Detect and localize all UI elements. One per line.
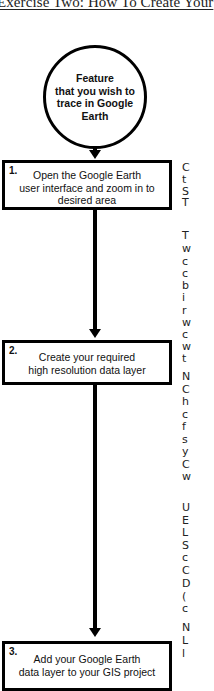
side-text-fragment: N — [182, 371, 190, 383]
side-text-fragment: w — [182, 471, 191, 483]
side-text-fragment: i — [182, 292, 185, 304]
side-text-fragment: c — [182, 603, 188, 615]
side-text-fragment: f — [182, 421, 186, 433]
side-text-fragment: L — [182, 527, 188, 539]
step-text: Add your Google Earth data layer to your… — [5, 644, 169, 678]
step-text: Open the Google Earth user interface and… — [5, 163, 169, 207]
side-text-column: CtSTTwccbirwcwtNChcfsyCwUELScCD(cNLl — [182, 0, 198, 677]
side-text-fragment: T — [182, 197, 189, 209]
side-text-fragment: t — [182, 353, 186, 365]
connector-line — [93, 385, 97, 629]
side-text-fragment: C — [182, 565, 190, 577]
start-node-circle: Feature that you wish to trace in Google… — [43, 45, 147, 149]
arrow-down-icon — [89, 628, 101, 637]
side-text-fragment: U — [182, 502, 190, 514]
side-text-fragment: D — [182, 578, 190, 590]
side-text-fragment: L — [182, 635, 188, 647]
start-node-label: Feature that you wish to trace in Google… — [55, 72, 135, 122]
side-text-fragment: N — [182, 622, 190, 634]
step-2-box: 2. Create your required high resolution … — [2, 340, 172, 385]
step-number: 1. — [9, 165, 17, 176]
side-text-fragment: w — [182, 243, 191, 255]
connector-line — [93, 210, 97, 330]
step-number: 3. — [9, 646, 17, 657]
side-text-fragment: h — [182, 396, 189, 408]
arrow-down-icon — [89, 329, 101, 338]
step-3-box: 3. Add your Google Earth data layer to y… — [2, 641, 172, 691]
side-text-fragment: y — [182, 446, 189, 458]
step-text: Create your required high resolution dat… — [5, 343, 169, 376]
side-text-fragment: l — [182, 648, 185, 660]
arrow-down-icon — [89, 150, 101, 159]
side-text-fragment: T — [182, 230, 189, 242]
step-1-box: 1. Open the Google Earth user interface … — [2, 160, 172, 210]
step-number: 2. — [9, 345, 17, 356]
side-text-fragment: c — [182, 552, 188, 564]
